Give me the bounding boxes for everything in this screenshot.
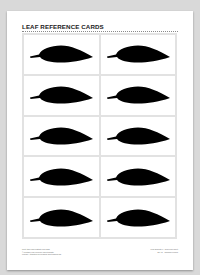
reference-sheet-page: LEAF REFERENCE CARDS (7, 11, 193, 270)
title-divider (22, 31, 178, 32)
leaf-icon (27, 43, 95, 65)
footer-line: License: Attribution for personal and te… (22, 253, 61, 256)
leaf-icon (104, 43, 172, 65)
page-title: LEAF REFERENCE CARDS (22, 23, 104, 30)
leaf-icon (27, 125, 95, 147)
leaf-card (100, 156, 177, 197)
leaf-card-grid (22, 33, 177, 239)
leaf-icon (27, 84, 95, 106)
leaf-card (23, 75, 100, 116)
leaf-icon (104, 207, 172, 229)
footer-line: No. 01 · Common Leaves (150, 251, 178, 254)
leaf-icon (104, 125, 172, 147)
leaf-icon (104, 84, 172, 106)
leaf-card (100, 75, 177, 116)
footer-credits: Print, trace and illustrate leaf cards ©… (22, 248, 61, 256)
leaf-card (23, 197, 100, 238)
leaf-icon (27, 207, 95, 229)
leaf-icon (104, 166, 172, 188)
leaf-card (100, 197, 177, 238)
leaf-card (100, 34, 177, 75)
leaf-card (23, 34, 100, 75)
leaf-card (23, 156, 100, 197)
leaf-card (100, 116, 177, 157)
leaf-card (23, 116, 100, 157)
leaf-icon (27, 166, 95, 188)
footer-template-info: Leaf Template 1 · Reference sheet No. 01… (150, 248, 178, 253)
